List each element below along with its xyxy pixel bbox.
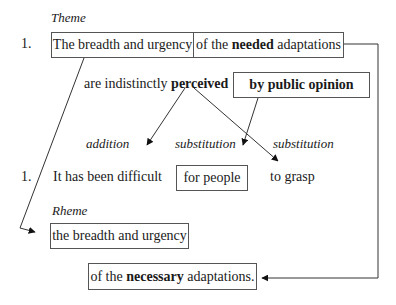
public-opinion-box: by public opinion: [233, 72, 370, 98]
theme-label: Theme: [51, 10, 86, 26]
theme-box-text: The breadth and urgency: [53, 37, 192, 53]
opinion-to-people-arrow: [243, 98, 258, 145]
line1-number: 1.: [21, 36, 32, 52]
necessary-adaptations-box: of the necessary adaptations.: [88, 263, 257, 290]
substitution-label-1: substitution: [175, 136, 236, 152]
rheme-box: the breadth and urgency: [50, 223, 189, 249]
public-opinion-text: by public opinion: [249, 77, 353, 93]
rheme-box-text: the breadth and urgency: [52, 228, 187, 244]
to-grasp-text: to grasp: [270, 169, 315, 185]
necessary-adaptations-text: of the necessary adaptations.: [90, 269, 254, 285]
perceived-phrase: are indistinctly perceived: [84, 76, 228, 92]
theme-box: The breadth and urgency of the needed ad…: [51, 32, 344, 58]
difficult-text: It has been difficult: [53, 169, 162, 185]
substitution-label-2: substitution: [273, 136, 334, 152]
for-people-text: for people: [183, 170, 240, 186]
rheme-label: Rheme: [52, 203, 87, 219]
line3-number: 1.: [21, 169, 32, 185]
addition-label: addition: [86, 136, 129, 152]
for-people-box: for people: [176, 165, 248, 191]
needed-adaptations-text: of the needed adaptations: [196, 37, 341, 53]
